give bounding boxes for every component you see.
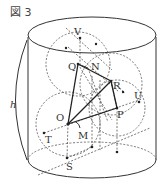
label-T: T bbox=[45, 134, 52, 145]
point-dots bbox=[43, 37, 141, 160]
label-R: R bbox=[113, 80, 121, 91]
height-arc bbox=[16, 40, 28, 160]
cylinder-sphere-diagram: 図 3 h bbox=[0, 0, 164, 189]
label-M: M bbox=[78, 130, 88, 141]
angle-arc bbox=[76, 122, 80, 128]
height-label: h bbox=[10, 99, 16, 110]
label-Q: Q bbox=[68, 61, 76, 72]
label-U: U bbox=[134, 90, 142, 101]
cylinder-top-ellipse bbox=[28, 17, 156, 53]
figure-title: 図 3 bbox=[10, 6, 32, 19]
label-V: V bbox=[73, 26, 82, 37]
label-P: P bbox=[117, 109, 124, 120]
label-N: N bbox=[91, 61, 100, 72]
cylinder-bottom-front bbox=[28, 160, 156, 178]
solid-edges bbox=[68, 64, 117, 128]
label-S: S bbox=[66, 161, 73, 172]
label-O: O bbox=[56, 112, 64, 123]
